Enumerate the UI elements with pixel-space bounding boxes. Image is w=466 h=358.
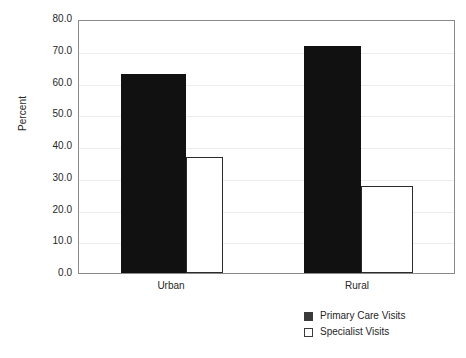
bar-urban-specialist-visits [186,157,223,273]
plot-area [78,20,455,274]
y-axis-tick-label: 0.0 [12,267,72,278]
y-axis-tick-label: 40.0 [12,140,72,151]
chart-legend: Primary Care VisitsSpecialist Visits [304,308,405,340]
x-axis-tick-label: Urban [131,280,211,291]
legend-item-label: Primary Care Visits [320,310,405,322]
y-axis-tick-label: 10.0 [12,235,72,246]
y-axis-tick-label: 20.0 [12,204,72,215]
y-axis-tick-label: 70.0 [12,45,72,56]
legend-item-label: Specialist Visits [320,326,389,338]
bar-rural-specialist-visits [361,186,413,273]
bar-chart-figure: Percent 80.070.060.050.040.030.020.010.0… [0,0,466,358]
x-axis-tick-label: Rural [317,280,397,291]
bar-urban-primary-care-visits [121,74,186,273]
legend-item: Specialist Visits [304,324,405,340]
legend-item: Primary Care Visits [304,308,405,324]
gridline [79,53,454,54]
bar-rural-primary-care-visits [304,46,361,273]
legend-swatch-open-square-icon [304,328,313,337]
y-axis-tick-label: 80.0 [12,13,72,24]
y-axis-tick-label: 30.0 [12,172,72,183]
y-axis-tick-label: 50.0 [12,108,72,119]
y-axis-tick-label: 60.0 [12,77,72,88]
legend-swatch-filled-square-icon [304,312,313,321]
